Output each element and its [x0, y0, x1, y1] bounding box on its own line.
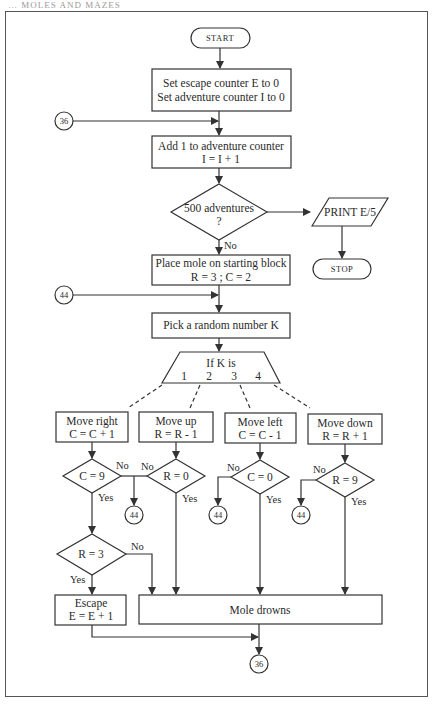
move-down-line2: R = R + 1 — [322, 429, 368, 443]
case-2: 2 — [206, 369, 212, 383]
place-mole-line1: Place mole on starting block — [156, 256, 287, 270]
yes-label-r0: Yes — [182, 493, 197, 504]
escape-line2: E = E + 1 — [69, 609, 113, 623]
move-right-line1: Move right — [66, 414, 117, 428]
no-label-c0: No — [227, 462, 240, 473]
yes-label-r9: Yes — [351, 496, 366, 507]
no-label-r0: No — [141, 461, 154, 472]
connector-36-bottom: 36 — [255, 659, 264, 669]
init-line2: Set adventure counter I to 0 — [157, 90, 284, 104]
move-left-line1: Move left — [237, 415, 282, 429]
place-mole-line2: R = 3 ; C = 2 — [191, 270, 251, 284]
no-label-r9: No — [313, 464, 326, 475]
connector-44-a: 44 — [130, 510, 139, 520]
escape-line1: Escape — [75, 596, 108, 610]
increment-line1: Add 1 to adventure counter — [158, 139, 284, 153]
check-r3-label: R = 3 — [78, 547, 104, 561]
check-500-line2: ? — [216, 214, 221, 228]
case-1: 1 — [181, 369, 187, 383]
case-3: 3 — [231, 369, 237, 383]
flowchart-lines — [0, 0, 438, 708]
check-r9-label: R = 9 — [332, 473, 358, 487]
move-up-line2: R = R - 1 — [155, 427, 198, 441]
connector-44-b: 44 — [214, 510, 223, 520]
move-right-line2: C = C + 1 — [69, 427, 115, 441]
connector-44-top: 44 — [60, 290, 69, 300]
move-down-line1: Move down — [317, 416, 372, 430]
print-label: PRINT E/5 — [324, 205, 376, 219]
check-c0-label: C = 0 — [247, 470, 273, 484]
connector-44-c: 44 — [297, 510, 306, 520]
no-label-c9: No — [116, 460, 129, 471]
check-500-line1: 500 adventures — [184, 201, 254, 215]
check-c9-label: C = 9 — [79, 469, 105, 483]
connector-36-top: 36 — [60, 116, 69, 126]
drowns-label: Mole drowns — [229, 603, 290, 617]
yes-label-c0: Yes — [266, 494, 281, 505]
switch-k-label: If K is — [206, 356, 235, 370]
yes-label-r3: Yes — [70, 574, 85, 585]
case-4: 4 — [255, 369, 261, 383]
check-r0-label: R = 0 — [163, 469, 189, 483]
no-label-500: No — [224, 240, 237, 251]
init-line1: Set escape counter E to 0 — [163, 76, 279, 90]
stop-label: STOP — [331, 262, 354, 276]
start-label: START — [206, 31, 234, 45]
move-up-line1: Move up — [155, 414, 196, 428]
yes-label-c9: Yes — [98, 492, 113, 503]
pick-random-label: Pick a random number K — [163, 318, 279, 332]
increment-line2: I = I + 1 — [202, 152, 240, 166]
move-left-line2: C = C - 1 — [239, 428, 282, 442]
no-label-r3: No — [131, 541, 144, 552]
